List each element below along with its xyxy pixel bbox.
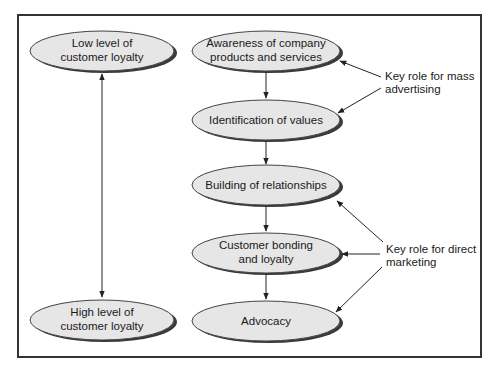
node-low-loyalty-line2: customer loyalty [60,51,143,63]
annotation-mass-line2: advertising [385,83,441,95]
node-advocacy-label: Advocacy [241,315,291,327]
node-awareness-line2: products and services [210,51,322,63]
annotation-direct-line2: marketing [386,256,437,268]
node-awareness-line1: Awareness of company [206,37,326,49]
node-relationships-label: Building of relationships [205,179,327,191]
annotation-direct-line1: Key role for direct [386,243,477,255]
node-high-loyalty-line2: customer loyalty [60,320,143,332]
node-identification-label: Identification of values [209,114,323,126]
node-high-loyalty-line1: High level of [70,306,134,318]
customer-loyalty-diagram: Low level of customer loyalty High level… [0,0,496,370]
node-bonding-line2: and loyalty [239,253,294,265]
node-low-loyalty-line1: Low level of [72,37,134,49]
annotation-mass-line1: Key role for mass [385,70,475,82]
node-bonding-line1: Customer bonding [219,239,313,251]
